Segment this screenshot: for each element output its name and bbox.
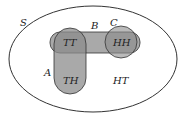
set-b-label: B	[90, 20, 98, 31]
sample-space-label: S	[20, 17, 27, 28]
outcome-tt: TT	[63, 37, 78, 48]
set-a-label: A	[43, 67, 51, 78]
outcome-ht: HT	[112, 75, 130, 86]
set-c-label: C	[110, 17, 118, 28]
outcome-hh: HH	[112, 37, 131, 48]
venn-diagram: S A B C TT HH TH HT	[0, 0, 189, 118]
outcome-th: TH	[63, 75, 79, 86]
